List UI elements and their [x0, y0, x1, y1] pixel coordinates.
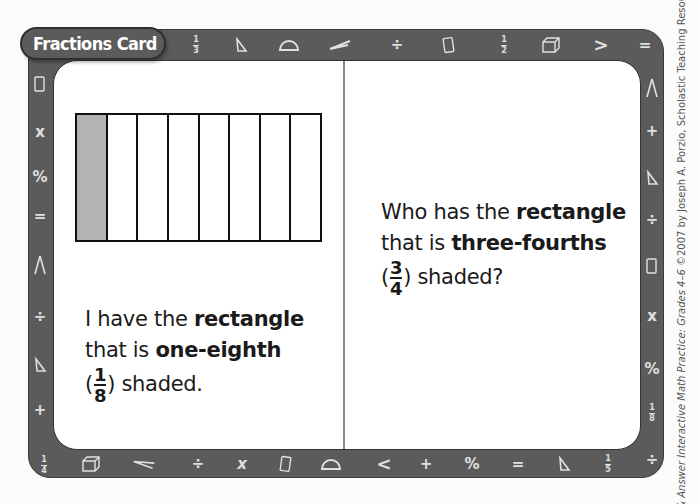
- rectangle-prism-icon: [274, 452, 298, 476]
- percent-icon: %: [460, 452, 484, 476]
- fraction-three-fourths: 34: [390, 259, 402, 297]
- fraction-denominator: 4: [390, 280, 402, 297]
- fraction-numerator: 1: [94, 366, 106, 383]
- question-text: that is: [381, 231, 451, 255]
- fraction-one-eighth: 18: [94, 366, 106, 404]
- rectangle-prism-icon: [437, 33, 461, 57]
- statement-bold: one-eighth: [155, 338, 281, 362]
- plus-icon: +: [414, 452, 438, 476]
- divide-icon: ÷: [640, 448, 664, 472]
- statement-text: that is: [85, 338, 155, 362]
- protractor-icon: [277, 33, 301, 57]
- fraction-one-eighth-icon: 18: [640, 401, 664, 425]
- divide-icon: ÷: [186, 452, 210, 476]
- triangle-icon: [640, 166, 664, 190]
- equals-icon: =: [633, 33, 657, 57]
- multiply-icon: x: [640, 304, 664, 328]
- rectangle-part: [291, 115, 320, 240]
- copyright-credit: Ask & Answer Interactive Math Practice: …: [676, 0, 687, 504]
- who-has-question: Who has the rectangle that is three-four…: [381, 197, 626, 297]
- question-text: ) shaded?: [403, 265, 503, 289]
- triangle-icon: [229, 33, 253, 57]
- rectangle-part: [108, 115, 139, 240]
- plus-icon: +: [28, 398, 52, 422]
- triangle-icon: [552, 452, 576, 476]
- plus-icon: +: [640, 119, 664, 143]
- fraction-one-fifth-icon: 15: [596, 452, 620, 476]
- multiply-icon: x: [28, 120, 52, 144]
- question-bold: rectangle: [516, 200, 626, 224]
- triangle-icon: [28, 353, 52, 377]
- cube-icon: [79, 452, 103, 476]
- equals-icon: =: [506, 452, 530, 476]
- less-than-icon: <: [372, 452, 396, 476]
- equals-icon: =: [28, 204, 52, 228]
- cube-icon: [539, 33, 563, 57]
- rectangle-part-shaded: [77, 115, 108, 240]
- divide-icon: ÷: [28, 305, 52, 329]
- card-divider: [343, 61, 345, 449]
- protractor-icon: [319, 452, 343, 476]
- rectangle-part: [230, 115, 261, 240]
- fraction-denominator: 8: [94, 387, 106, 404]
- compass-icon: [328, 33, 352, 57]
- paren: (: [381, 265, 389, 289]
- fraction-one-half-icon: 12: [492, 33, 516, 57]
- divide-icon: ÷: [640, 208, 664, 232]
- fraction-numerator: 3: [390, 259, 402, 276]
- rectangle-part: [261, 115, 292, 240]
- rectangle-part: [169, 115, 200, 240]
- credit-text: ©2007 by Joseph A. Porzio, Scholastic Te…: [676, 0, 687, 269]
- card-title: Fractions Card: [20, 27, 166, 60]
- rectangle-part: [138, 115, 169, 240]
- fraction-rectangle: [75, 113, 322, 242]
- rectangle-part: [200, 115, 231, 240]
- paren: (: [85, 372, 93, 396]
- question-bold: three-fourths: [451, 231, 606, 255]
- i-have-statement: I have the rectangle that is one-eighth …: [85, 304, 304, 404]
- rectangle-prism-icon: [28, 72, 52, 96]
- greater-than-icon: >: [589, 33, 613, 57]
- statement-text: I have the: [85, 307, 194, 331]
- credit-title: Ask & Answer Interactive Math Practice: …: [676, 269, 687, 504]
- fraction-one-fourth-icon: 14: [32, 453, 56, 477]
- multiply-icon: x: [230, 452, 254, 476]
- fraction-one-third-icon: 13: [184, 33, 208, 57]
- statement-text: ) shaded.: [107, 372, 203, 396]
- divide-icon: ÷: [385, 33, 409, 57]
- percent-icon: %: [28, 165, 52, 189]
- compass-icon: [132, 452, 156, 476]
- question-text: Who has the: [381, 200, 516, 224]
- statement-bold: rectangle: [194, 307, 304, 331]
- rectangle-prism-icon: [640, 254, 664, 278]
- compass-icon: [640, 76, 664, 100]
- percent-icon: %: [640, 357, 664, 381]
- compass-icon: [28, 253, 52, 277]
